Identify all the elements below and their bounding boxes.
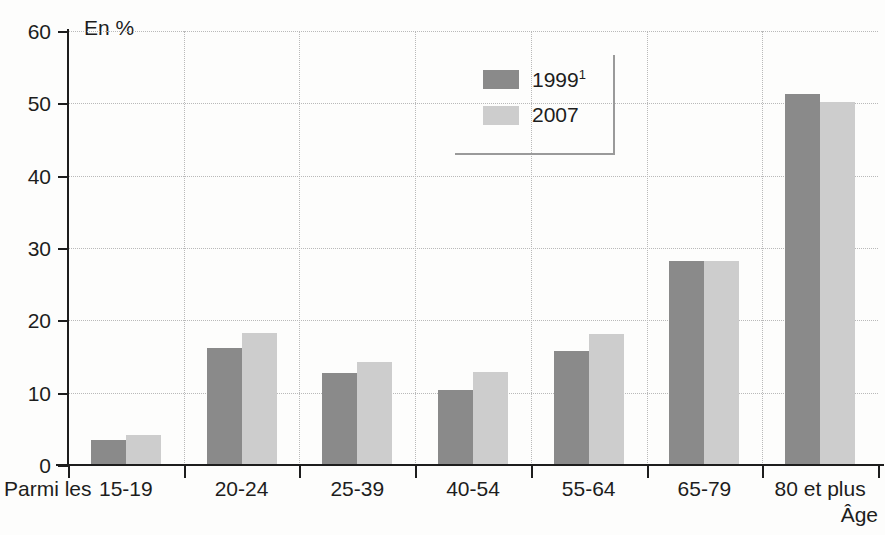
gridline-vertical — [762, 31, 763, 465]
legend-swatch-1999 — [483, 70, 519, 89]
gridline-vertical — [415, 31, 416, 465]
x-axis-tick-label: 20-24 — [184, 477, 300, 501]
y-axis-tick-label: 60 — [28, 20, 51, 44]
x-axis-tick-label: 40-54 — [415, 477, 531, 501]
legend-label-2007: 2007 — [532, 103, 579, 127]
chart-page: En % 0102030405060 Parmi les 15-1920-242… — [0, 0, 885, 535]
bar-2007-25-39 — [357, 362, 392, 465]
bar-2007-40-54 — [473, 372, 508, 465]
legend-item-2007: 2007 — [483, 103, 579, 127]
x-axis-tick-label: 65-79 — [647, 477, 763, 501]
bar-1999-55-64 — [554, 351, 589, 465]
y-axis-tick: 40 — [58, 176, 69, 178]
gridline-vertical — [299, 31, 300, 465]
bar-1999-20-24 — [207, 348, 242, 465]
y-axis-tick: 30 — [58, 248, 69, 250]
bar-2007-65-79 — [704, 261, 739, 465]
legend-swatch-2007 — [483, 106, 519, 125]
x-axis-tick-label: 55-64 — [531, 477, 647, 501]
y-axis: 0102030405060 — [67, 29, 69, 467]
x-axis-tick-label: 25-39 — [299, 477, 415, 501]
legend-label-1999: 19991 — [532, 67, 586, 92]
legend: 199912007 — [455, 55, 615, 155]
legend-footnote-marker: 1 — [579, 67, 586, 82]
y-axis-tick: 20 — [58, 320, 69, 322]
y-axis-tick-label: 10 — [28, 382, 51, 406]
x-axis-tick — [878, 466, 880, 478]
bar-group — [207, 31, 277, 465]
y-axis-tick-label: 40 — [28, 165, 51, 189]
bar-1999-25-39 — [322, 373, 357, 465]
bar-2007-55-64 — [589, 334, 624, 465]
y-axis-tick: 10 — [58, 393, 69, 395]
y-axis-tick: 50 — [58, 103, 69, 105]
bar-group — [785, 31, 855, 465]
gridline-vertical — [647, 31, 648, 465]
x-axis-title: Âge — [841, 503, 878, 527]
bar-group — [669, 31, 739, 465]
y-axis-tick: 60 — [58, 31, 69, 33]
bar-group — [322, 31, 392, 465]
x-axis-tick-label: 80 et plus — [762, 477, 878, 501]
bar-2007-80-et-plus — [820, 102, 855, 465]
y-axis-tick-label: 30 — [28, 237, 51, 261]
x-axis-tick-label: 15-19 — [68, 477, 184, 501]
y-axis-tick-label: 50 — [28, 92, 51, 116]
y-axis-tick-label: 0 — [39, 454, 51, 478]
bar-1999-40-54 — [438, 390, 473, 465]
bar-1999-15-19 — [91, 440, 126, 465]
bar-2007-20-24 — [242, 333, 277, 465]
y-axis-tick-label: 20 — [28, 309, 51, 333]
bar-1999-65-79 — [669, 261, 704, 465]
legend-item-1999: 19991 — [483, 67, 586, 92]
gridline-vertical — [184, 31, 185, 465]
x-axis — [56, 464, 884, 466]
bar-1999-80-et-plus — [785, 94, 820, 465]
bar-2007-15-19 — [126, 435, 161, 465]
bar-group — [91, 31, 161, 465]
